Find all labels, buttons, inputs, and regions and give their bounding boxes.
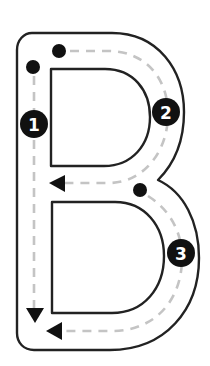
step-2-badge-label: 2 [160, 103, 172, 123]
step-3-badge-label: 3 [175, 244, 187, 264]
bottom-counter-outline [52, 202, 164, 313]
stroke-1-down-arrow-icon [26, 308, 44, 323]
stroke-3-start-dot [133, 183, 147, 197]
stroke-2-left-arrow-icon [49, 175, 65, 192]
top-counter-outline [51, 69, 150, 166]
stroke-3-left-arrow-icon [46, 322, 62, 340]
step-1-badge-label: 1 [28, 115, 40, 135]
letter-b-tracing-diagram: 1 2 3 [0, 0, 210, 366]
step-1-badge: 1 [20, 110, 48, 138]
step-3-badge: 3 [167, 239, 195, 267]
step-2-badge: 2 [152, 98, 180, 126]
stroke-1-start-dot [26, 60, 40, 74]
letter-outer-outline [17, 33, 199, 350]
stroke-2-start-dot [52, 44, 66, 58]
